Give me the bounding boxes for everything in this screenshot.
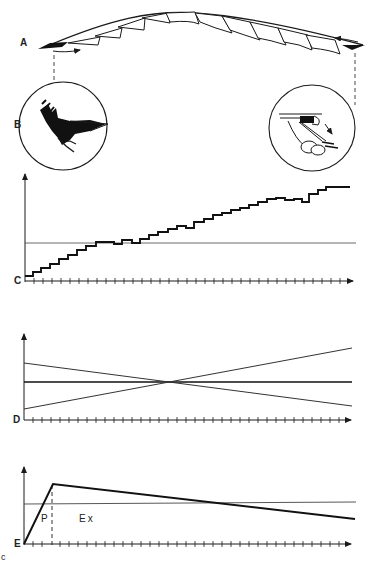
panel-label-d: D: [13, 414, 20, 425]
panel-c-chart: [25, 174, 356, 284]
panel-label-a: A: [20, 37, 27, 48]
panel-d-chart: [24, 334, 352, 423]
phase-label-ex: Ex: [79, 513, 95, 524]
panel-label-e: E: [14, 538, 21, 549]
panel-b-landing-inset: [269, 85, 355, 171]
corner-mark: c: [1, 552, 6, 562]
panel-b-takeoff-inset: [19, 82, 108, 170]
figure: A B C D E P Ex c: [0, 0, 377, 566]
panel-label-b: B: [14, 119, 21, 130]
figure-canvas: [0, 0, 377, 566]
panel-e-chart: [24, 467, 356, 547]
phase-label-p: P: [41, 513, 48, 524]
panel-label-c: C: [14, 275, 21, 286]
